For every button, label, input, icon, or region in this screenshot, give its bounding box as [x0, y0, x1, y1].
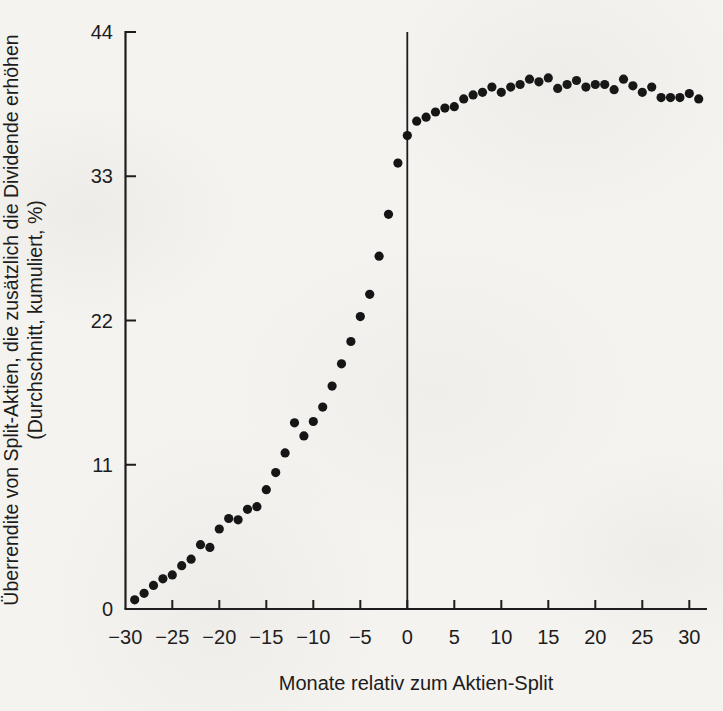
scanned-chart-page: Überrendite von Split-Aktien, die zusätz… — [0, 0, 723, 711]
x-tick-label: −30 — [108, 626, 142, 648]
data-point — [506, 83, 515, 92]
y-axis-label-line2: (Durchschnitt, kumuliert, %) — [24, 200, 46, 439]
x-tick-label: 20 — [584, 626, 606, 648]
x-tick-label: 10 — [490, 626, 512, 648]
data-point — [328, 382, 337, 391]
data-point — [459, 94, 468, 103]
x-tick-label: 30 — [678, 626, 700, 648]
data-point — [572, 76, 581, 85]
data-point — [666, 93, 675, 102]
data-point — [187, 555, 196, 564]
x-tick-label: 0 — [402, 626, 413, 648]
x-tick-label: 15 — [537, 626, 559, 648]
x-tick-label: −20 — [202, 626, 236, 648]
y-tick-label: 0 — [102, 598, 113, 620]
data-point — [591, 80, 600, 89]
data-point — [318, 403, 327, 412]
data-point — [412, 117, 421, 126]
data-point — [516, 80, 525, 89]
x-tick-label: 25 — [631, 626, 653, 648]
data-point — [403, 131, 412, 140]
x-tick-label: −15 — [249, 626, 283, 648]
y-tick-label: 44 — [91, 21, 113, 43]
data-point — [619, 75, 628, 84]
y-tick-label: 33 — [91, 165, 113, 187]
data-point — [431, 107, 440, 116]
scatter-plot: Überrendite von Split-Aktien, die zusätz… — [0, 0, 723, 711]
data-point — [675, 93, 684, 102]
data-point — [299, 431, 308, 440]
x-tick-label: −25 — [155, 626, 189, 648]
data-point — [346, 337, 355, 346]
data-point — [243, 505, 252, 514]
data-point — [478, 88, 487, 97]
data-point — [638, 88, 647, 97]
data-point — [610, 85, 619, 94]
data-point — [337, 359, 346, 368]
data-point — [177, 561, 186, 570]
data-point — [422, 113, 431, 122]
x-axis-title: Monate relativ zum Aktien-Split — [279, 672, 554, 694]
data-point — [271, 468, 280, 477]
data-point — [628, 81, 637, 90]
axis-ticks: −30−25−20−15−10−5051015202530011223344 — [91, 21, 701, 648]
data-point — [158, 574, 167, 583]
data-point — [356, 312, 365, 321]
data-point — [553, 84, 562, 93]
data-point — [262, 485, 271, 494]
x-tick-label: 5 — [449, 626, 460, 648]
data-point — [657, 93, 666, 102]
data-point — [215, 524, 224, 533]
data-point — [581, 83, 590, 92]
data-point — [647, 83, 656, 92]
y-axis-label-line1: Überrendite von Split-Aktien, die zusätz… — [0, 34, 22, 605]
y-tick-label: 22 — [91, 310, 113, 332]
data-point — [393, 159, 402, 168]
y-tick-label: 11 — [92, 454, 113, 476]
data-point — [375, 252, 384, 261]
data-point — [140, 589, 149, 598]
data-point — [563, 80, 572, 89]
data-point — [525, 75, 534, 84]
data-point — [205, 543, 214, 552]
x-tick-label: −5 — [349, 626, 372, 648]
data-point — [487, 83, 496, 92]
data-point — [469, 90, 478, 99]
data-point — [224, 514, 233, 523]
data-point — [234, 515, 243, 524]
data-point — [544, 73, 553, 82]
data-point — [252, 502, 261, 511]
data-point — [600, 80, 609, 89]
data-point — [440, 104, 449, 113]
data-point — [290, 418, 299, 427]
data-point — [450, 102, 459, 111]
data-point — [149, 581, 158, 590]
data-point — [168, 570, 177, 579]
data-point — [196, 540, 205, 549]
data-point — [534, 77, 543, 86]
data-point — [497, 88, 506, 97]
data-point — [309, 417, 318, 426]
data-point — [365, 290, 374, 299]
data-point — [694, 94, 703, 103]
x-tick-label: −10 — [296, 626, 330, 648]
data-point — [685, 89, 694, 98]
data-point — [384, 210, 393, 219]
data-point — [130, 595, 139, 604]
data-points — [130, 73, 703, 604]
data-point — [281, 448, 290, 457]
